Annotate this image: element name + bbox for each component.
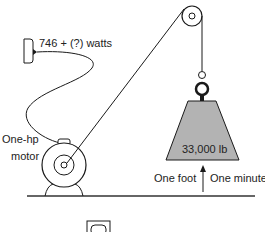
weight-label: 33,000 lb (182, 143, 227, 155)
motor-icon (42, 139, 86, 196)
hook-ring-large (196, 83, 208, 95)
power-label: 746 + (?) watts (39, 37, 112, 49)
motor-label-line1: One-hp (2, 133, 39, 145)
rope-to-pulley (67, 9, 184, 163)
pulley-icon (182, 6, 202, 26)
outlet-icon (87, 221, 110, 232)
time-label: One minute (210, 172, 265, 184)
motor-label-line2: motor (11, 150, 39, 162)
distance-label: One foot (154, 172, 196, 184)
hook-ring-small (199, 72, 206, 79)
horsepower-diagram (0, 0, 265, 232)
power-cord (26, 52, 93, 143)
plug-icon (24, 39, 33, 63)
